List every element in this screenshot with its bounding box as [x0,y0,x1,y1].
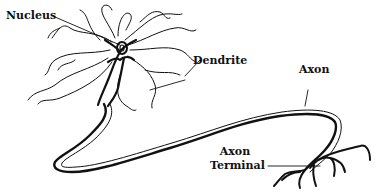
label-axon-terminal-line2: Terminal [210,160,260,172]
label-axon: Axon [299,64,329,76]
neuron-diagram: Nucleus Dendrite Axon Axon Terminal [0,0,386,193]
neuron-illustration [0,0,386,193]
label-axon-terminal-line1: Axon [210,146,260,158]
label-dendrite: Dendrite [193,55,247,67]
label-nucleus: Nucleus [6,10,56,22]
